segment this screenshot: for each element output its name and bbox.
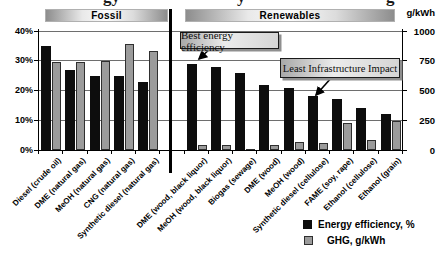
right-axis-tick-label: 500 (409, 85, 435, 96)
left-axis-tick (34, 120, 38, 121)
bottom-axis-tick (329, 151, 330, 154)
bottom-axis-line (38, 150, 403, 151)
right-axis-tick-label: 750 (409, 55, 435, 66)
bottom-axis-tick (87, 151, 88, 154)
bottom-axis-tick (232, 151, 233, 154)
left-axis-tick (34, 31, 38, 32)
bottom-axis-tick (378, 151, 379, 154)
bottom-axis-tick (281, 151, 282, 154)
right-axis-tick (403, 60, 407, 61)
right-axis-tick (403, 90, 407, 91)
right-axis-tick-label: 1000 (409, 26, 435, 37)
fossil-renewables-divider-line (169, 9, 172, 173)
bottom-axis-tick (256, 151, 257, 154)
bottom-axis-tick (184, 151, 185, 154)
left-axis-tick-label: 10% (5, 115, 33, 125)
right-axis-tick (403, 150, 407, 151)
energy-efficiency-legend-label: Energy efficiency, % (318, 219, 415, 230)
left-axis-tick (34, 60, 38, 61)
bottom-axis-tick (402, 151, 403, 154)
right-axis-tick-label: 250 (409, 115, 435, 126)
bottom-axis-tick (159, 151, 160, 154)
ghg-legend-label: GHG, g/kWh (327, 235, 385, 246)
left-axis-tick-label: 20% (5, 85, 33, 95)
least-infrastructure-callout-text: Least Infrastructure Impact (283, 63, 397, 74)
energy-efficiency-swatch (303, 220, 312, 229)
bottom-axis-tick (135, 151, 136, 154)
bottom-axis-tick (353, 151, 354, 154)
least-infrastructure-callout: Least Infrastructure Impact (280, 58, 400, 78)
ghg-swatch (304, 236, 313, 245)
legend: Energy efficiency, % GHG, g/kWh (303, 219, 415, 251)
right-axis-tick (403, 120, 407, 121)
left-axis-tick (34, 90, 38, 91)
legend-item-ghg: GHG, g/kWh (303, 235, 415, 246)
best-efficiency-callout-text: Best energy efficiency (181, 29, 278, 53)
well-to-wheel-bar-chart: gyyg Fossil Renewables g/kWh Diesel (cru… (0, 0, 440, 259)
right-axis-tick (403, 31, 407, 32)
bottom-axis-tick (38, 151, 39, 154)
bottom-axis-tick (62, 151, 63, 154)
legend-item-energy-efficiency: Energy efficiency, % (303, 219, 415, 230)
left-axis-tick-label: 0% (5, 145, 33, 155)
bottom-axis-tick (305, 151, 306, 154)
left-axis-tick-label: 30% (5, 55, 33, 65)
bottom-axis-tick (208, 151, 209, 154)
right-axis-tick-label: 0 (409, 145, 435, 156)
left-axis-line (38, 29, 39, 150)
left-axis-tick-label: 40% (5, 26, 33, 36)
best-efficiency-callout: Best energy efficiency (180, 32, 279, 49)
bottom-axis-tick (111, 151, 112, 154)
